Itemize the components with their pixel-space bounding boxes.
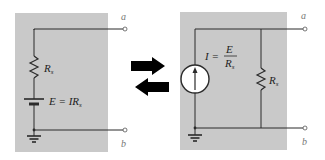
right-terminal-b: [303, 126, 307, 130]
current-source-label: I =: [204, 50, 219, 62]
right-terminal-b-label: b: [302, 136, 307, 147]
fraction-numerator: E: [225, 43, 233, 55]
right-arrow-icon: [131, 57, 165, 75]
right-terminal-a-label: a: [301, 10, 306, 21]
left-terminal-a-label: a: [121, 11, 126, 22]
left-terminal-b-label: b: [121, 138, 126, 149]
source-conversion-diagram: Rs E = IRs a b: [0, 0, 325, 160]
conversion-arrows: [131, 57, 169, 96]
left-terminal-a: [123, 27, 127, 31]
left-panel-background: [15, 13, 108, 152]
left-terminal-b: [123, 128, 127, 132]
left-arrow-icon: [135, 78, 169, 96]
left-source-label: E = IRs: [48, 95, 82, 109]
right-circuit: I = E Rs Rs a b: [180, 10, 307, 150]
right-terminal-a: [303, 27, 307, 31]
left-circuit: Rs E = IRs a b: [15, 11, 127, 152]
